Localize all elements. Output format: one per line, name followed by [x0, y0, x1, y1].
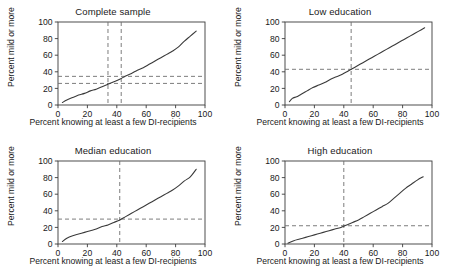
- y-tick-label: 20: [270, 84, 280, 94]
- y-tick-label: 60: [43, 50, 53, 60]
- chart-panel-high-education: High education Percent mild or more 0204…: [227, 139, 453, 278]
- y-tick-label: 20: [270, 223, 280, 233]
- y-tick-label: 100: [265, 17, 280, 27]
- chart-panel-complete-sample: Complete sample Percent mild or more 020…: [0, 0, 226, 139]
- plot-frame: [58, 22, 205, 105]
- x-axis-label: Percent knowing at least a few DI-recipi…: [227, 256, 453, 266]
- chart-panel-median-education: Median education Percent mild or more 02…: [0, 139, 226, 278]
- y-tick-label: 80: [270, 173, 280, 183]
- x-axis-label: Percent knowing at least a few DI-recipi…: [227, 117, 453, 127]
- x-axis-label: Percent knowing at least a few DI-recipi…: [0, 256, 226, 266]
- y-tick-label: 40: [270, 67, 280, 77]
- data-curve: [62, 169, 196, 241]
- data-curve: [289, 28, 424, 102]
- y-tick-label: 80: [43, 173, 53, 183]
- plot-frame: [285, 161, 432, 244]
- y-tick-label: 60: [270, 50, 280, 60]
- y-tick-label: 40: [270, 206, 280, 216]
- y-tick-label: 40: [43, 67, 53, 77]
- x-axis-label: Percent knowing at least a few DI-recipi…: [0, 117, 226, 127]
- chart-panel-low-education: Low education Percent mild or more 02040…: [227, 0, 453, 139]
- plot-frame: [285, 22, 432, 105]
- y-tick-label: 100: [265, 156, 280, 166]
- y-tick-label: 100: [38, 17, 53, 27]
- y-tick-label: 80: [270, 34, 280, 44]
- figure-panel-grid: Complete sample Percent mild or more 020…: [0, 0, 453, 278]
- y-tick-label: 0: [275, 239, 280, 249]
- y-tick-label: 60: [270, 189, 280, 199]
- y-tick-label: 100: [38, 156, 53, 166]
- y-tick-label: 0: [48, 100, 53, 110]
- y-tick-label: 0: [48, 239, 53, 249]
- data-curve: [62, 31, 196, 102]
- y-tick-label: 20: [43, 84, 53, 94]
- y-tick-label: 60: [43, 189, 53, 199]
- y-tick-label: 80: [43, 34, 53, 44]
- y-tick-label: 0: [275, 100, 280, 110]
- y-tick-label: 20: [43, 223, 53, 233]
- plot-frame: [58, 161, 205, 244]
- y-tick-label: 40: [43, 206, 53, 216]
- data-curve: [288, 177, 423, 243]
